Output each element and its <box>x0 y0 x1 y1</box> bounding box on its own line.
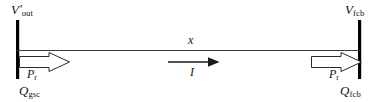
left-bus-voltage-symbol: V <box>11 2 19 17</box>
transmission-line-diagram: V′out Vfcb x I Pr Qgsc Pr Qfcb <box>0 0 385 102</box>
left-bus-voltage-subscript: out <box>22 8 33 18</box>
left-active-power-label: Pr <box>27 68 37 80</box>
right-bus-voltage-subscript: fcb <box>353 8 364 18</box>
right-bus-voltage-symbol: V <box>345 2 353 17</box>
left-reactive-power-label: Qgsc <box>19 84 40 97</box>
right-reactive-power-symbol: Q <box>340 83 349 98</box>
distance-label: x <box>188 34 193 46</box>
right-active-power-label: Pr <box>329 68 339 80</box>
left-bus-bar <box>16 20 19 79</box>
left-reactive-power-subscript: gsc <box>28 89 40 99</box>
right-reactive-power-subscript: fcb <box>349 89 360 99</box>
right-bus-bar <box>358 20 361 79</box>
right-active-power-subscript: r <box>336 73 339 82</box>
current-label: I <box>190 66 194 78</box>
left-reactive-power-symbol: Q <box>19 83 28 98</box>
left-bus-voltage-label: V′out <box>11 3 33 16</box>
current-arrow-head-icon <box>208 57 220 67</box>
left-active-power-subscript: r <box>34 73 37 82</box>
right-reactive-power-label: Qfcb <box>340 84 361 97</box>
diagram-canvas <box>0 0 385 102</box>
right-bus-voltage-label: Vfcb <box>345 3 364 16</box>
